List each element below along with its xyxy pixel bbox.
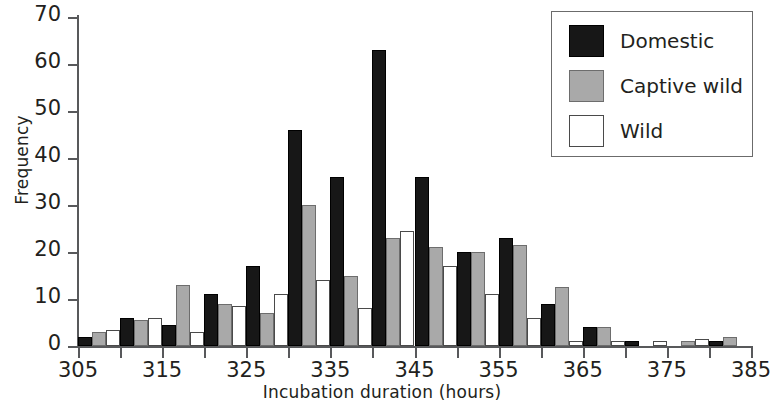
- y-axis-tick-label: 40: [34, 145, 61, 166]
- y-axis-tick: 10: [68, 299, 78, 301]
- y-axis-tick-label: 50: [34, 98, 61, 119]
- y-axis-title: Frequency: [12, 90, 32, 230]
- bar-captive-375: [681, 341, 695, 346]
- bar-wild-375: [695, 339, 709, 346]
- bar-captive-310: [134, 320, 148, 346]
- x-axis-tick: [583, 346, 585, 358]
- bar-captive-335: [344, 276, 358, 347]
- y-axis-tick: 20: [68, 252, 78, 254]
- x-axis-tick-label: 355: [479, 360, 519, 381]
- bar-captive-320: [218, 304, 232, 346]
- x-axis-minor-tick: [457, 346, 459, 358]
- bar-wild-320: [232, 306, 246, 346]
- x-axis-tick-label: 345: [394, 360, 434, 381]
- legend-label-captive-wild: Captive wild: [620, 76, 743, 96]
- bar-domestic-320: [204, 294, 218, 346]
- legend-swatch-captive-wild: [569, 70, 604, 102]
- bar-domestic-310: [120, 318, 134, 346]
- bar-domestic-335: [330, 177, 344, 346]
- y-axis-tick: 60: [68, 64, 78, 66]
- x-axis-tick: [162, 346, 164, 358]
- x-axis-minor-tick: [372, 346, 374, 358]
- x-axis-tick-label: 385: [731, 360, 771, 381]
- bar-captive-325: [260, 313, 274, 346]
- bar-captive-350: [471, 252, 485, 346]
- bar-wild-345: [443, 266, 457, 346]
- bar-captive-340: [386, 238, 400, 346]
- bar-wild-360: [569, 341, 583, 346]
- bar-wild-305: [106, 330, 120, 346]
- x-axis-minor-tick: [625, 346, 627, 358]
- bar-wild-325: [274, 294, 288, 346]
- y-axis-tick-label: 60: [34, 51, 61, 72]
- bar-captive-355: [513, 245, 527, 346]
- x-axis-tick-label: 335: [310, 360, 350, 381]
- x-axis-tick: [751, 346, 753, 358]
- bar-domestic-340: [372, 50, 386, 346]
- x-axis-minor-tick: [709, 346, 711, 358]
- legend-item-wild: Wild: [569, 115, 663, 147]
- bar-wild-355: [527, 318, 541, 346]
- bar-domestic-305: [78, 337, 92, 346]
- bar-captive-380: [723, 337, 737, 346]
- bar-domestic-370: [625, 341, 639, 346]
- bar-domestic-355: [499, 238, 513, 346]
- x-axis-tick: [78, 346, 80, 358]
- legend-label-domestic: Domestic: [620, 31, 714, 51]
- x-axis-tick: [499, 346, 501, 358]
- bar-wild-350: [485, 294, 499, 346]
- y-axis-tick: 0: [68, 346, 78, 348]
- bar-wild-315: [190, 332, 204, 346]
- x-axis-tick: [667, 346, 669, 358]
- bar-domestic-330: [288, 130, 302, 346]
- x-axis-minor-tick: [288, 346, 290, 358]
- x-axis-minor-tick: [120, 346, 122, 358]
- x-axis-tick-label: 375: [647, 360, 687, 381]
- bar-wild-335: [358, 308, 372, 346]
- bar-wild-310: [148, 318, 162, 346]
- x-axis-tick-label: 325: [226, 360, 266, 381]
- x-axis-tick: [415, 346, 417, 358]
- bar-captive-365: [597, 327, 611, 346]
- legend-label-wild: Wild: [620, 121, 663, 141]
- bar-domestic-350: [457, 252, 471, 346]
- y-axis-tick-label: 30: [34, 192, 61, 213]
- y-axis-tick: 70: [68, 17, 78, 19]
- bar-domestic-345: [415, 177, 429, 346]
- x-axis-minor-tick: [541, 346, 543, 358]
- x-axis-tick-label: 315: [142, 360, 182, 381]
- y-axis-tick: 40: [68, 158, 78, 160]
- x-axis-tick-label: 305: [58, 360, 98, 381]
- legend-item-domestic: Domestic: [569, 25, 714, 57]
- legend-item-captive-wild: Captive wild: [569, 70, 743, 102]
- bar-domestic-365: [583, 327, 597, 346]
- y-axis-tick: 30: [68, 205, 78, 207]
- bar-domestic-360: [541, 304, 555, 346]
- bar-captive-305: [92, 332, 106, 346]
- bar-wild-340: [400, 231, 414, 346]
- bar-wild-330: [316, 280, 330, 346]
- legend-swatch-wild: [569, 115, 604, 147]
- bar-captive-360: [555, 287, 569, 346]
- y-axis-tick-label: 10: [34, 286, 61, 307]
- bar-captive-330: [302, 205, 316, 346]
- bar-wild-365: [611, 341, 625, 346]
- x-axis-title: Incubation duration (hours): [0, 382, 764, 402]
- bar-wild-370: [653, 341, 667, 346]
- x-axis-tick: [246, 346, 248, 358]
- legend-swatch-domestic: [569, 25, 604, 57]
- x-axis-tick-label: 365: [563, 360, 603, 381]
- bar-captive-315: [176, 285, 190, 346]
- y-axis-tick-label: 70: [34, 4, 61, 25]
- bar-domestic-325: [246, 266, 260, 346]
- x-axis-minor-tick: [204, 346, 206, 358]
- bar-captive-345: [429, 247, 443, 346]
- y-axis-tick-label: 20: [34, 239, 61, 260]
- y-axis-tick: 50: [68, 111, 78, 113]
- bar-domestic-380: [709, 341, 723, 346]
- bar-domestic-315: [162, 325, 176, 346]
- legend: Domestic Captive wild Wild: [551, 11, 753, 157]
- y-axis-tick-label: 0: [48, 333, 61, 354]
- x-axis-tick: [330, 346, 332, 358]
